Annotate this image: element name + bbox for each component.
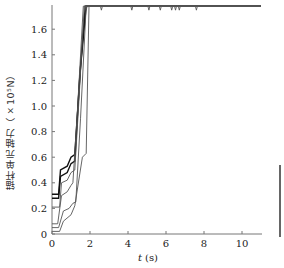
edge-bar [279, 165, 281, 237]
x-tick-label: 2 [87, 238, 93, 249]
x-axis-title: t(s) [138, 252, 158, 263]
y-tick-label: 0.2 [31, 203, 47, 214]
y-tick-label: 0 [41, 229, 47, 240]
line-chart: 0246810 00.20.40.60.81.01.21.41.6 t(s) [0, 0, 284, 268]
y-tick-label: 1.6 [31, 24, 47, 35]
x-tick-label: 10 [236, 238, 249, 249]
series-line-bolt-2 [52, 6, 261, 198]
y-tick-label: 0.4 [31, 177, 47, 188]
y-tick-label: 1.0 [31, 101, 47, 112]
x-tick-label: 8 [201, 238, 207, 249]
y-tick-label: 1.4 [31, 49, 47, 60]
y-tick-label: 0.6 [31, 152, 47, 163]
series-group [52, 6, 261, 231]
y-axis-ticks: 00.20.40.60.81.01.21.41.6 [31, 24, 55, 240]
x-tick-label: 0 [49, 238, 55, 249]
y-tick-label: 1.2 [31, 75, 47, 86]
x-tick-label: 4 [125, 238, 131, 249]
x-tick-label: 6 [163, 238, 169, 249]
y-tick-label: 0.8 [31, 126, 47, 137]
